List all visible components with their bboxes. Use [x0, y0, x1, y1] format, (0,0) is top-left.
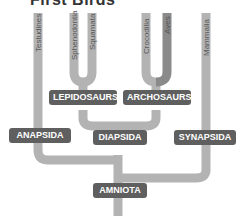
leaf-squamata: Squamata: [88, 14, 97, 50]
node-synapsida: SYNAPSIDA: [174, 130, 236, 145]
leaf-mammalia: Mammalia: [202, 19, 211, 56]
leaf-aves: Aves: [163, 16, 172, 34]
leaf-testudines: Testudines: [34, 14, 43, 52]
leaf-sphenodontia: Sphenodontia: [70, 11, 79, 60]
node-amniota: AMNIOTA: [93, 183, 147, 198]
node-archosaurs: ARCHOSAURS: [123, 90, 191, 105]
node-anapsida: ANAPSIDA: [9, 128, 71, 143]
node-lepidosaurs: LEPIDOSAURS: [49, 90, 117, 105]
branch-diapsida: [83, 110, 156, 126]
leaf-crocodilia: Crocodilia: [142, 18, 151, 54]
node-diapsida: DIAPSIDA: [93, 130, 147, 145]
